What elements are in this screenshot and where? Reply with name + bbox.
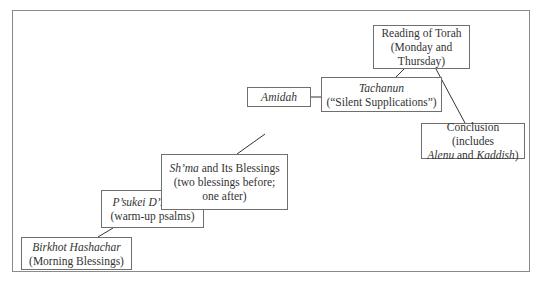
node-title-rest: and Its Blessings <box>199 162 280 174</box>
node-title: Birkhot Hashachar <box>32 241 120 253</box>
node-birkhot-hashachar: Birkhot Hashachar (Morning Blessings) <box>21 237 132 270</box>
node-title-italic: Sh’ma <box>169 162 198 174</box>
node-subtitle: (warm-up psalms) <box>106 209 199 223</box>
node-italic-alenu: Alenu <box>427 149 454 161</box>
node-reading-of-torah: Reading of Torah (Monday and Thursday) <box>373 25 470 69</box>
node-subtitle: (Morning Blessings) <box>26 254 127 268</box>
node-line-1: Reading of Torah <box>378 26 465 40</box>
node-line-2: (Monday and <box>378 40 465 54</box>
node-subtitle: (“Silent Supplications”) <box>326 95 437 109</box>
node-title: Amidah <box>261 91 297 103</box>
node-conclusion: Conclusion (includes Alenu and Kaddish) <box>421 123 525 159</box>
node-text-close: ) <box>515 149 519 161</box>
node-amidah: Amidah <box>247 87 311 107</box>
node-line-3: Thursday) <box>378 54 465 68</box>
node-line-1: Conclusion (includes <box>426 120 520 148</box>
node-italic-kaddish: Kaddish <box>477 149 515 161</box>
node-text-and: and <box>454 149 476 161</box>
node-line-2: (two blessings before; <box>166 175 283 189</box>
node-title: Tachanun <box>359 82 404 94</box>
node-tachanun: Tachanun (“Silent Supplications”) <box>321 77 442 112</box>
node-line-3: one after) <box>166 189 283 203</box>
node-shma-blessings: Sh’ma and Its Blessings (two blessings b… <box>161 154 288 210</box>
